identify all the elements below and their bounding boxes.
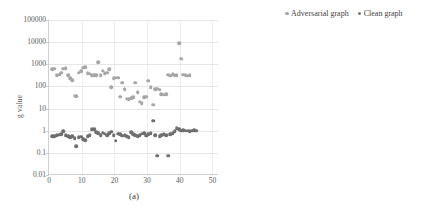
data-point	[73, 137, 77, 141]
gridline-horizontal	[49, 109, 218, 110]
gridline-horizontal	[49, 86, 218, 87]
data-point	[79, 70, 83, 74]
y-axis-tick-label: 10000	[27, 38, 46, 46]
legend-label: Clean graph	[364, 9, 403, 18]
data-point	[88, 134, 92, 138]
x-axis-tick-label: 40	[176, 177, 184, 185]
data-point	[94, 73, 98, 77]
y-axis-tick-mark	[46, 86, 49, 87]
gridline-horizontal	[49, 64, 218, 65]
legend-entry: Adversarial graph	[285, 9, 349, 18]
y-axis-label-a: g value	[15, 95, 24, 118]
gridline-horizontal	[49, 42, 218, 43]
data-point	[136, 90, 140, 94]
y-axis-tick-mark	[46, 109, 49, 110]
y-axis-tick-label: 1000	[31, 61, 46, 69]
data-point	[151, 103, 155, 107]
data-point	[188, 73, 192, 77]
data-point	[114, 139, 118, 143]
legend-marker-icon	[358, 12, 362, 16]
data-point	[179, 57, 183, 61]
data-point	[149, 132, 153, 136]
data-point	[62, 129, 66, 133]
data-point	[112, 134, 116, 138]
y-axis-tick-mark	[46, 153, 49, 154]
gridline-horizontal	[49, 153, 218, 154]
data-point	[149, 86, 153, 90]
data-point	[153, 134, 157, 138]
data-point	[164, 134, 168, 138]
panel-caption-a: (a)	[129, 191, 139, 201]
data-point	[140, 102, 144, 106]
data-point	[99, 73, 103, 77]
data-point	[52, 67, 56, 71]
data-point	[151, 119, 155, 123]
data-point	[127, 135, 131, 139]
data-point	[195, 129, 199, 133]
gridline-vertical	[212, 20, 213, 174]
data-point	[123, 87, 127, 91]
y-axis-tick-label: 0.1	[37, 149, 46, 157]
data-point	[164, 92, 168, 96]
y-axis-tick-label: 0.01	[33, 171, 46, 179]
y-axis-tick-mark	[46, 131, 49, 132]
data-point	[166, 154, 170, 158]
data-point	[120, 81, 124, 85]
data-point	[60, 71, 64, 75]
data-point	[107, 67, 111, 71]
data-point	[105, 71, 109, 75]
data-point	[97, 60, 101, 64]
data-point	[116, 76, 120, 80]
gridline-horizontal	[49, 20, 218, 21]
data-point	[134, 81, 138, 85]
data-point	[83, 66, 87, 70]
x-axis-tick-label: 0	[47, 177, 51, 185]
data-point	[132, 96, 136, 100]
data-point	[118, 95, 122, 99]
data-point	[158, 88, 162, 92]
data-point	[83, 138, 87, 142]
data-point	[75, 94, 79, 98]
data-point	[70, 78, 74, 82]
gridline-vertical	[114, 20, 115, 174]
y-axis-tick-label: 100000	[24, 16, 47, 24]
legend-entry: Clean graph	[358, 9, 403, 18]
data-point	[110, 85, 114, 89]
data-point	[64, 66, 68, 70]
y-axis-tick-mark	[46, 64, 49, 65]
panel-b: 0.0010.010.1110100100010000050100150200 …	[223, 0, 447, 217]
panel-a: g value 0.010.11101001000100001000000102…	[0, 0, 224, 217]
y-axis-tick-label: 10	[39, 105, 47, 113]
figure-container: g value 0.010.11101001000100001000000102…	[0, 0, 447, 217]
x-axis-tick-label: 50	[209, 177, 217, 185]
data-point	[75, 144, 79, 148]
x-axis-tick-label: 20	[111, 177, 119, 185]
legend-label: Adversarial graph	[291, 9, 349, 18]
y-axis-tick-mark	[46, 20, 49, 21]
data-point	[175, 73, 179, 77]
gridline-vertical	[82, 20, 83, 174]
data-point	[177, 41, 181, 45]
data-point	[145, 95, 149, 99]
x-axis-tick-label: 10	[78, 177, 86, 185]
legend: Adversarial graphClean graph	[285, 9, 403, 18]
y-axis-tick-mark	[46, 42, 49, 43]
legend-marker-icon	[285, 12, 289, 16]
y-axis-tick-label: 100	[35, 83, 46, 91]
plot-area-a: 0.010.111010010001000010000001020304050	[48, 20, 218, 175]
x-axis-tick-label: 30	[143, 177, 151, 185]
data-point	[147, 79, 151, 83]
data-point	[155, 154, 159, 158]
